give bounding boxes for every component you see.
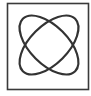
orbit-icon xyxy=(0,0,91,96)
frame-border xyxy=(8,4,89,90)
orbit-icon-tile xyxy=(0,0,91,96)
